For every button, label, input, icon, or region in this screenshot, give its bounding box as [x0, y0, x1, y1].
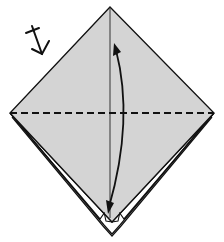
diagram-canvas: [0, 0, 224, 242]
turn-over-icon: [26, 26, 49, 54]
origami-diagram: [0, 0, 224, 242]
paper-diamond: [10, 7, 214, 222]
